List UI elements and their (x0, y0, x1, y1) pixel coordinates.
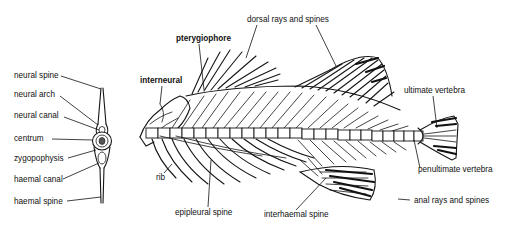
isolated-vertebra (93, 88, 112, 203)
label-haemal-spine: haemal spine (14, 197, 63, 206)
label-ultimate-vertebra: ultimate vertebra (404, 86, 465, 95)
label-centrum: centrum (14, 134, 44, 143)
label-dorsal-rays-and-spines: dorsal rays and spines (247, 15, 329, 24)
vertebra-labels: neural spine neural arch neural canal ce… (14, 71, 101, 206)
label-pterygiophore: pterygiophore (176, 34, 231, 43)
ribs (152, 139, 314, 184)
label-interneural: interneural (140, 76, 182, 85)
label-neural-arch: neural arch (14, 90, 55, 99)
label-penultimate-vertebra: penultimate vertebra (418, 165, 493, 174)
label-anal-rays-and-spines: anal rays and spines (414, 196, 489, 205)
epipleural-spines (160, 136, 286, 158)
soft-dorsal-rays (295, 57, 394, 107)
label-neural-canal: neural canal (14, 111, 59, 120)
fish-skeleton (140, 50, 458, 200)
haemal-spines (298, 140, 406, 166)
caudal-fin (418, 116, 458, 160)
label-rib: rib (156, 173, 166, 182)
label-interhaemal-spine: interhaemal spine (264, 210, 329, 219)
neural-spines (172, 92, 408, 131)
fish-skeleton-diagram: neural spine neural arch neural canal ce… (0, 0, 505, 242)
label-zygopophysis: zygopophysis (14, 154, 64, 163)
spiny-dorsal-rays (192, 50, 280, 94)
skeleton-labels: dorsal rays and spines pterygiophore int… (140, 15, 493, 219)
label-epipleural-spine: epipleural spine (175, 208, 233, 217)
label-haemal-canal: haemal canal (14, 175, 63, 184)
label-neural-spine: neural spine (14, 71, 59, 80)
